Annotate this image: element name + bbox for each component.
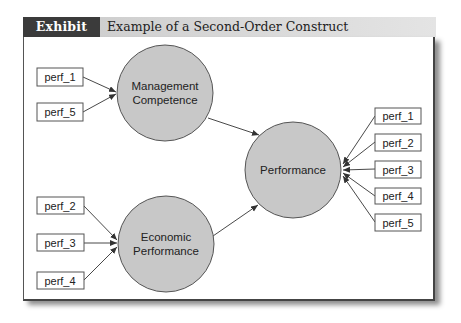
svg-text:perf_2: perf_2 xyxy=(44,200,75,212)
construct-economic-performance: Economic Performance xyxy=(118,196,214,292)
svg-text:perf_5: perf_5 xyxy=(44,106,75,118)
construct-label: Economic xyxy=(141,231,192,243)
svg-text:perf_5: perf_5 xyxy=(382,217,413,229)
svg-text:perf_1: perf_1 xyxy=(44,71,75,83)
svg-text:perf_3: perf_3 xyxy=(44,237,75,249)
indicator-perf-perf-3: perf_3 xyxy=(375,161,421,178)
construct-label: Management xyxy=(131,80,199,92)
indicator-mgmt-perf-5: perf_5 xyxy=(37,103,83,121)
construct-label: Competence xyxy=(132,94,197,106)
indicator-mgmt-perf-1: perf_1 xyxy=(37,68,83,86)
indicator-econ-perf-4: perf_4 xyxy=(37,272,84,289)
indicator-perf-perf-1: perf_1 xyxy=(375,108,421,124)
indicator-econ-perf-2: perf_2 xyxy=(37,197,84,214)
construct-performance: Performance xyxy=(245,122,341,218)
svg-text:perf_4: perf_4 xyxy=(44,275,75,287)
construct-label: Performance xyxy=(133,245,199,257)
svg-text:perf_1: perf_1 xyxy=(382,110,413,122)
construct-management-competence: Management Competence xyxy=(117,45,213,141)
construct-label: Performance xyxy=(260,164,326,176)
indicator-perf-perf-2: perf_2 xyxy=(375,134,421,151)
svg-text:perf_2: perf_2 xyxy=(382,137,413,149)
indicator-perf-perf-5: perf_5 xyxy=(375,214,421,231)
svg-text:perf_4: perf_4 xyxy=(382,190,413,202)
svg-text:perf_3: perf_3 xyxy=(382,164,413,176)
indicator-econ-perf-3: perf_3 xyxy=(37,234,84,251)
path-diagram: Management Competence Economic Performan… xyxy=(0,0,461,323)
indicator-perf-perf-4: perf_4 xyxy=(375,188,421,204)
